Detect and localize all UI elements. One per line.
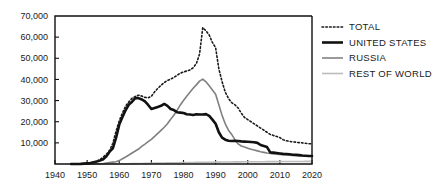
x-tick-label: 1940 xyxy=(45,170,65,180)
x-tick-label: 1970 xyxy=(141,170,161,180)
legend-label-rest-of-world: REST OF WORLD xyxy=(349,68,432,79)
x-tick-label: 2020 xyxy=(302,170,322,180)
nuclear-stockpile-line-chart: 10,00020,00030,00040,00050,00060,00070,0… xyxy=(0,0,433,195)
legend-label-russia: RUSSIA xyxy=(349,52,387,63)
x-tick-label: 2000 xyxy=(238,170,258,180)
legend-label-united-states: UNITED STATES xyxy=(349,37,426,48)
y-tick-label: 60,000 xyxy=(20,32,48,42)
x-tick-label: 1990 xyxy=(206,170,226,180)
x-axis-tick-labels: 194019501960197019801990200020102020 xyxy=(45,170,322,180)
x-tick-label: 1960 xyxy=(109,170,129,180)
y-tick-label: 50,000 xyxy=(20,53,48,63)
y-tick-label: 10,000 xyxy=(20,138,48,148)
x-tick-label: 1980 xyxy=(173,170,193,180)
legend-label-total: TOTAL xyxy=(349,21,380,32)
x-tick-label: 2010 xyxy=(270,170,290,180)
y-tick-label: 30,000 xyxy=(20,96,48,106)
x-tick-label: 1950 xyxy=(77,170,97,180)
y-tick-label: 40,000 xyxy=(20,75,48,85)
y-tick-label: 70,000 xyxy=(20,11,48,21)
chart-page: 10,00020,00030,00040,00050,00060,00070,0… xyxy=(0,0,433,195)
y-tick-label: 20,000 xyxy=(20,117,48,127)
